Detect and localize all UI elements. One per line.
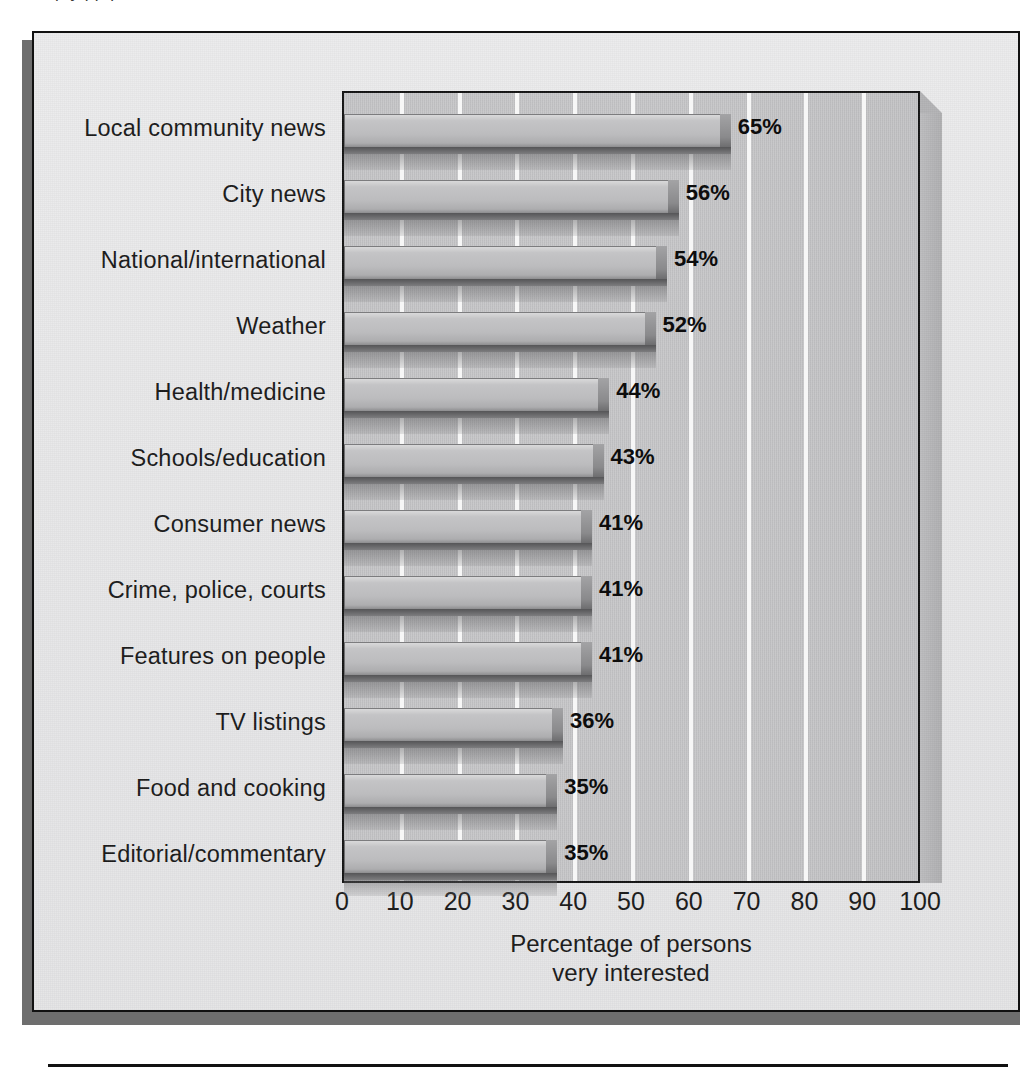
bar-bottom-lip <box>344 411 609 418</box>
bar[interactable] <box>344 833 557 879</box>
bar[interactable] <box>344 437 604 483</box>
bar-bottom-lip <box>344 741 563 748</box>
category-label: TV listings <box>26 711 326 735</box>
bar-row <box>344 107 732 173</box>
bar[interactable] <box>344 767 557 813</box>
bar-end-cap <box>668 180 679 213</box>
bar-end-cap <box>581 510 592 543</box>
bar-row <box>344 569 593 635</box>
bar[interactable] <box>344 503 592 549</box>
bar-cast-shadow <box>344 814 557 830</box>
bar-value-label: 36% <box>570 710 614 732</box>
bar-row <box>344 701 564 767</box>
x-axis-title-line-2: very interested <box>342 958 920 987</box>
bar-bottom-lip <box>344 873 557 880</box>
gridline-90 <box>862 93 866 881</box>
bar-row <box>344 173 680 239</box>
bar[interactable] <box>344 305 656 351</box>
bar-value-label: 41% <box>599 578 643 600</box>
bar-end-cap <box>546 774 557 807</box>
bar[interactable] <box>344 701 563 747</box>
bar[interactable] <box>344 173 679 219</box>
bar-end-cap <box>546 840 557 873</box>
plot-depth-bevel <box>920 91 942 113</box>
bar-value-label: 52% <box>663 314 707 336</box>
bar-end-cap <box>552 708 563 741</box>
x-tick-label-80: 80 <box>790 889 818 914</box>
bar-cast-shadow <box>344 880 557 896</box>
bar-cast-shadow <box>344 748 563 764</box>
category-axis: Local community newsCity newsNational/in… <box>34 91 334 881</box>
bar-front-face <box>344 510 581 543</box>
bar-value-label: 43% <box>611 446 655 468</box>
bar-bottom-lip <box>344 675 592 682</box>
category-label: Editorial/commentary <box>26 843 326 867</box>
bar-end-cap <box>581 642 592 675</box>
bar[interactable] <box>344 371 609 417</box>
category-label: Crime, police, courts <box>26 579 326 603</box>
page-bottom-rule <box>48 1064 1008 1067</box>
bar-front-face <box>344 576 581 609</box>
plot-depth-face <box>920 113 942 883</box>
bar-row <box>344 239 668 305</box>
bar-cast-shadow <box>344 154 731 170</box>
x-tick-label-50: 50 <box>617 889 645 914</box>
bar-end-cap <box>593 444 604 477</box>
bar-value-label: 35% <box>564 776 608 798</box>
x-axis-title: Percentage of personsvery interested <box>342 929 920 988</box>
x-tick-label-60: 60 <box>675 889 703 914</box>
x-tick-label-90: 90 <box>848 889 876 914</box>
bar-front-face <box>344 708 552 741</box>
bar-cast-shadow <box>344 682 592 698</box>
bar[interactable] <box>344 107 731 153</box>
clipped-top-text-strip: p y pp p <box>0 0 1033 14</box>
bar-front-face <box>344 378 598 411</box>
bar-row <box>344 305 657 371</box>
bar-row <box>344 767 558 833</box>
bar-front-face <box>344 312 645 345</box>
gridline-80 <box>804 93 808 881</box>
bar-cast-shadow <box>344 550 592 566</box>
category-label: National/international <box>26 249 326 273</box>
bar-value-label: 54% <box>674 248 718 270</box>
bar-front-face <box>344 642 581 675</box>
category-label: Consumer news <box>26 513 326 537</box>
category-label: Weather <box>26 315 326 339</box>
category-label: Schools/education <box>26 447 326 471</box>
bar-end-cap <box>598 378 609 411</box>
bar[interactable] <box>344 239 667 285</box>
bar-value-label: 44% <box>616 380 660 402</box>
bar-end-cap <box>720 114 731 147</box>
bar[interactable] <box>344 635 592 681</box>
bar-front-face <box>344 180 668 213</box>
bar-cast-shadow <box>344 484 604 500</box>
bar-bottom-lip <box>344 279 667 286</box>
x-tick-label-100: 100 <box>899 889 941 914</box>
bar-bottom-lip <box>344 477 604 484</box>
bar-cast-shadow <box>344 220 679 236</box>
bar-value-label: 41% <box>599 512 643 534</box>
bar-value-label: 65% <box>738 116 782 138</box>
bar-bottom-lip <box>344 213 679 220</box>
bar-row <box>344 635 593 701</box>
gridline-60 <box>689 93 693 881</box>
bar-row <box>344 437 605 503</box>
category-label: Food and cooking <box>26 777 326 801</box>
bar-chart: Local community newsCity newsNational/in… <box>34 33 1022 1014</box>
bar-row <box>344 833 558 899</box>
bar-bottom-lip <box>344 147 731 154</box>
bar-end-cap <box>581 576 592 609</box>
bar-front-face <box>344 114 720 147</box>
bar-bottom-lip <box>344 345 656 352</box>
bar-cast-shadow <box>344 286 667 302</box>
category-label: Features on people <box>26 645 326 669</box>
bar-end-cap <box>656 246 667 279</box>
bar-front-face <box>344 774 546 807</box>
x-tick-label-70: 70 <box>733 889 761 914</box>
category-label: City news <box>26 183 326 207</box>
bar-front-face <box>344 444 593 477</box>
bar-front-face <box>344 840 546 873</box>
bar-end-cap <box>645 312 656 345</box>
bar[interactable] <box>344 569 592 615</box>
bar-bottom-lip <box>344 609 592 616</box>
